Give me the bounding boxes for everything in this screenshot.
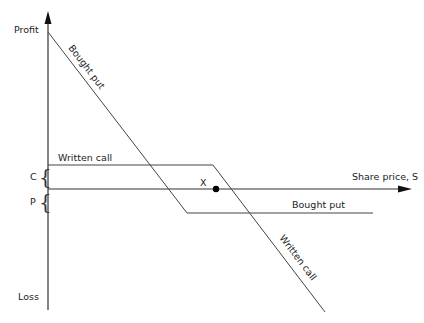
- x-axis-arrow-icon: [398, 186, 412, 193]
- loss-label: Loss: [18, 291, 39, 302]
- c-level-label: C: [30, 171, 37, 182]
- p-level-label: P: [30, 196, 36, 207]
- payoff-diagram: Profit Loss Share price, S C { P { X Wri…: [0, 0, 424, 323]
- share-price-label: Share price, S: [352, 171, 418, 182]
- y-axis-arrow-icon: [45, 11, 52, 24]
- bought-put-line: [48, 32, 373, 213]
- written-call-flat-label: Written call: [58, 152, 112, 163]
- c-brace-icon: {: [39, 165, 52, 189]
- strike-point-dot: [213, 186, 219, 192]
- strike-x-label: X: [200, 177, 207, 188]
- p-brace-icon: {: [39, 190, 52, 214]
- profit-loss-axis: [45, 11, 52, 310]
- bought-put-flat-label: Bought put: [292, 199, 345, 210]
- bought-put-diagonal-label: Bought put: [66, 43, 107, 92]
- profit-label: Profit: [14, 24, 39, 35]
